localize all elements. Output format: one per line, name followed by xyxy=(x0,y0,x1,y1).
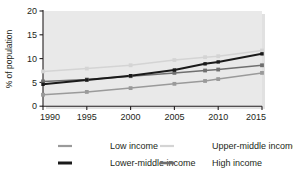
data-point-marker xyxy=(173,82,177,86)
data-point-marker xyxy=(203,79,207,83)
data-point-marker xyxy=(41,83,44,86)
data-point-marker xyxy=(217,60,220,63)
legend-label: Low income xyxy=(110,141,158,151)
data-point-marker xyxy=(216,77,220,81)
data-point-marker xyxy=(216,54,220,58)
x-tick-label: 2010 xyxy=(208,112,228,122)
data-point-marker xyxy=(85,78,88,81)
y-tick-label: 15 xyxy=(27,30,37,40)
data-point-marker xyxy=(203,55,207,59)
x-tick-label: 1995 xyxy=(77,112,97,122)
data-point-marker xyxy=(260,63,264,67)
data-point-marker xyxy=(129,74,132,77)
plot-background xyxy=(43,11,262,106)
x-tick-label: 1990 xyxy=(40,112,60,122)
legend-label: Upper-middle income xyxy=(212,141,293,151)
data-point-marker xyxy=(129,86,133,90)
legend-label: Lower-middle income xyxy=(110,158,196,168)
y-axis-ticks: 05101520 xyxy=(27,6,43,111)
chart-figure: 05101520 199019952000200520102015 % of p… xyxy=(0,0,293,178)
data-point-marker xyxy=(129,63,133,67)
y-tick-label: 0 xyxy=(32,101,37,111)
legend-item[interactable]: Upper-middle income xyxy=(160,141,293,151)
data-point-marker xyxy=(216,68,220,72)
data-point-marker xyxy=(203,62,206,65)
y-axis-title: % of population xyxy=(4,29,14,88)
chart-legend: Low incomeUpper-middle incomeLower-middl… xyxy=(58,141,293,168)
legend-item[interactable]: Low income xyxy=(58,141,158,151)
x-tick-label: 2000 xyxy=(121,112,141,122)
data-point-marker xyxy=(41,70,45,74)
data-point-marker xyxy=(260,49,264,53)
y-tick-label: 10 xyxy=(27,54,37,64)
legend-item[interactable]: Lower-middle income xyxy=(58,158,196,168)
data-point-marker xyxy=(173,58,177,62)
legend-label: High income xyxy=(212,158,262,168)
data-point-marker xyxy=(260,52,263,55)
x-tick-label: 2015 xyxy=(246,112,266,122)
data-point-marker xyxy=(173,68,176,71)
data-point-marker xyxy=(260,71,264,75)
data-point-marker xyxy=(203,69,207,73)
line-chart: 05101520 199019952000200520102015 % of p… xyxy=(0,0,293,178)
y-tick-label: 20 xyxy=(27,6,37,16)
data-point-marker xyxy=(41,93,45,97)
data-point-marker xyxy=(85,67,89,71)
y-tick-label: 5 xyxy=(32,78,37,88)
data-point-marker xyxy=(85,90,89,94)
x-tick-label: 2005 xyxy=(164,112,184,122)
